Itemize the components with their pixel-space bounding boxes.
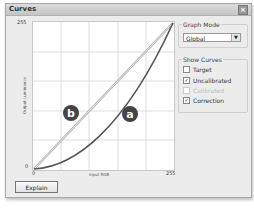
x-axis-label: Input RGB [89, 172, 109, 177]
curves-dialog: Curves × 255 0 0 255 Output Luminance In… [5, 3, 252, 198]
checkbox-checked-icon[interactable]: ✓ [183, 97, 190, 104]
checkbox-icon [183, 87, 190, 94]
chevron-down-icon[interactable]: ▼ [231, 34, 240, 41]
graph-mode-label: Graph Mode [182, 21, 221, 28]
checkbox-target[interactable]: Target [183, 66, 212, 73]
checkbox-uncalibrated[interactable]: ✓ Uncalibrated [183, 77, 231, 84]
title-bar[interactable]: Curves × [6, 4, 251, 16]
show-curves-group: Show Curves Target ✓ Uncalibrated Calibr… [178, 59, 248, 113]
window-title: Curves [9, 5, 36, 13]
y-min-tick: 0 [25, 163, 28, 169]
svg-text:a: a [126, 108, 133, 121]
checkbox-icon[interactable] [183, 66, 190, 73]
graph-mode-select[interactable]: Global ▼ [183, 33, 241, 42]
svg-text:b: b [67, 107, 75, 120]
checkbox-correction[interactable]: ✓ Correction [183, 97, 224, 104]
y-max-tick: 255 [17, 19, 27, 25]
marker-a-icon: a [122, 106, 138, 122]
marker-b-icon: b [63, 105, 79, 121]
close-icon[interactable]: × [238, 5, 248, 15]
curves-graph: b a [33, 22, 174, 170]
show-curves-label: Show Curves [182, 56, 223, 63]
graph-mode-group: Graph Mode Global ▼ [178, 24, 248, 48]
explain-button[interactable]: Explain [15, 181, 58, 193]
curves-plot[interactable]: b a [32, 21, 175, 171]
y-axis-label: Output Luminance [22, 77, 27, 114]
checkbox-calibrated: Calibrated [183, 87, 224, 94]
checkbox-checked-icon[interactable]: ✓ [183, 77, 190, 84]
graph-mode-value: Global [186, 35, 205, 42]
